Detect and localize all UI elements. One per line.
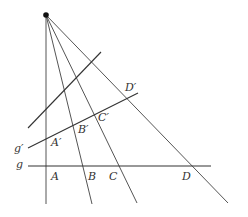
label-g: g bbox=[16, 158, 23, 171]
label-b: B bbox=[87, 170, 96, 183]
projection-center-point bbox=[43, 12, 49, 18]
label-a-prime: A′ bbox=[50, 136, 62, 149]
label-a: A bbox=[50, 170, 59, 183]
label-b-prime: B′ bbox=[77, 123, 89, 136]
label-g-prime: g′ bbox=[14, 142, 24, 155]
label-c: C bbox=[109, 170, 118, 183]
projection-diagram: g′ g A B C D A′ B′ C′ D′ bbox=[0, 0, 248, 217]
label-c-prime: C′ bbox=[98, 111, 109, 124]
line-g-prime bbox=[28, 93, 138, 148]
label-d-prime: D′ bbox=[124, 81, 137, 94]
label-d: D bbox=[181, 170, 191, 183]
ray-d bbox=[46, 15, 228, 203]
